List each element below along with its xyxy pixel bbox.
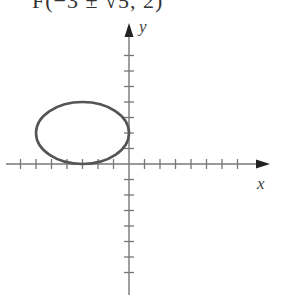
x-axis-arrow-icon	[256, 160, 270, 169]
y-axis-arrow-icon	[125, 23, 134, 37]
y-axis-label: y	[137, 17, 147, 36]
ellipse-curve	[36, 102, 129, 164]
x-axis-label: x	[256, 174, 265, 193]
coordinate-plane: y x	[0, 0, 282, 301]
